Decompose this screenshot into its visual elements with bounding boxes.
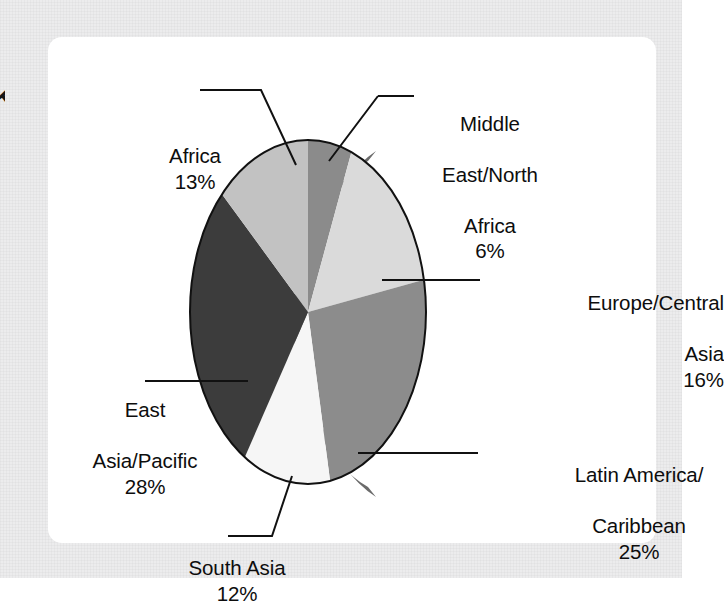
- slice-label-east-asia-pacific: East Asia/Pacific 28%: [68, 372, 222, 524]
- leader-line-south-asia: [228, 476, 292, 536]
- slice-label-latin-value: 25%: [554, 539, 724, 564]
- slice-label-south-asia: South Asia 12%: [160, 530, 314, 605]
- slice-label-east-asia-line2: Asia/Pacific: [93, 449, 198, 472]
- clipped-edge-glyph: K: [0, 82, 5, 116]
- slice-label-latin-line1: Latin America/: [575, 463, 704, 486]
- slice-label-africa-value: 13%: [141, 169, 249, 194]
- slice-label-africa-name: Africa: [169, 144, 221, 167]
- slice-label-mena-line3: Africa: [464, 214, 516, 237]
- slice-label-africa: Africa 13%: [141, 118, 249, 220]
- figure-panel: Africa 13% Middle East/North Africa 6% E…: [48, 37, 656, 543]
- slice-label-europe-line2: Asia: [685, 342, 724, 365]
- slice-label-latin-america-caribbean: Latin America/ Caribbean 25%: [554, 437, 724, 589]
- slice-label-europe-central-asia: Europe/Central Asia 16%: [556, 265, 724, 417]
- slice-label-mena-value: 6%: [426, 238, 554, 263]
- slice-label-middle-east-north-africa: Middle East/North Africa 6%: [426, 86, 554, 289]
- slice-label-europe-line1: Europe/Central: [588, 291, 724, 314]
- slice-label-east-asia-value: 28%: [68, 474, 222, 499]
- slice-label-south-asia-name: South Asia: [188, 556, 285, 579]
- slice-label-south-asia-value: 12%: [160, 581, 314, 605]
- pie-chart: Africa 13% Middle East/North Africa 6% E…: [48, 37, 656, 543]
- slice-label-europe-value: 16%: [556, 367, 724, 392]
- slice-label-mena-line1: Middle: [460, 112, 520, 135]
- slice-label-latin-line2: Caribbean: [592, 514, 686, 537]
- slice-label-mena-line2: East/North: [442, 163, 538, 186]
- slice-label-east-asia-line1: East: [125, 398, 166, 421]
